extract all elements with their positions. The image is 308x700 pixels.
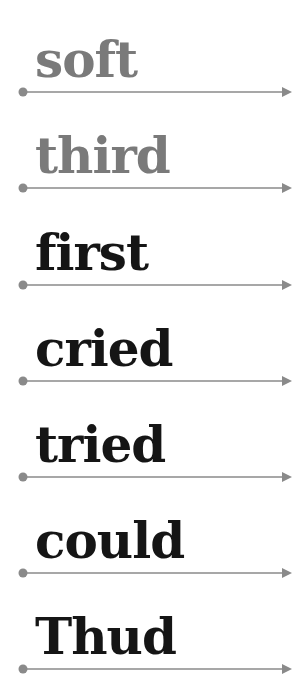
word-text: Thud <box>35 612 176 662</box>
arrow-right-icon <box>282 280 292 290</box>
arrow-right-icon <box>282 87 292 97</box>
writing-line <box>18 567 298 579</box>
word-row-soft: soft <box>0 2 308 98</box>
writing-line <box>18 182 298 194</box>
word-row-thud: Thud <box>0 579 308 675</box>
word-row-first: first <box>0 195 308 291</box>
writing-line <box>18 663 298 675</box>
writing-line <box>18 279 298 291</box>
word-row-tried: tried <box>0 387 308 483</box>
word-text: soft <box>35 35 137 85</box>
word-row-third: third <box>0 98 308 194</box>
arrow-right-icon <box>282 472 292 482</box>
arrow-right-icon <box>282 376 292 386</box>
word-text: cried <box>35 324 173 374</box>
word-row-cried: cried <box>0 291 308 387</box>
word-row-could: could <box>0 483 308 579</box>
arrow-right-icon <box>282 568 292 578</box>
writing-line <box>18 471 298 483</box>
arrow-right-icon <box>282 664 292 674</box>
writing-line <box>18 86 298 98</box>
writing-line <box>18 375 298 387</box>
arrow-right-icon <box>282 183 292 193</box>
word-text: first <box>35 228 148 278</box>
word-text: could <box>35 516 184 566</box>
word-text: tried <box>35 420 165 470</box>
word-text: third <box>35 131 170 181</box>
